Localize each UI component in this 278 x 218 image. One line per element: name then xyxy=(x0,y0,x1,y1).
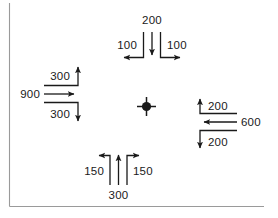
north-total-label: 200 xyxy=(142,14,162,26)
east-total-label: 600 xyxy=(241,116,261,128)
west-up-label: 300 xyxy=(50,70,70,82)
south-left-label: 150 xyxy=(84,165,104,177)
north-right-label: 100 xyxy=(167,39,187,51)
turning-movement-diagram: 200 100 100 900 300 300 600 200 200 xyxy=(0,0,278,218)
node-dot xyxy=(142,102,151,111)
east-up-label: 200 xyxy=(208,100,228,112)
south-total-label: 300 xyxy=(109,189,129,201)
north-left-label: 100 xyxy=(117,39,137,51)
west-down-label: 300 xyxy=(50,108,70,120)
diagram-canvas: 200 100 100 900 300 300 600 200 200 xyxy=(0,0,278,218)
south-right-label: 150 xyxy=(133,165,153,177)
intersection-node xyxy=(137,97,156,116)
west-total-label: 900 xyxy=(20,88,40,100)
east-down-label: 200 xyxy=(208,136,228,148)
